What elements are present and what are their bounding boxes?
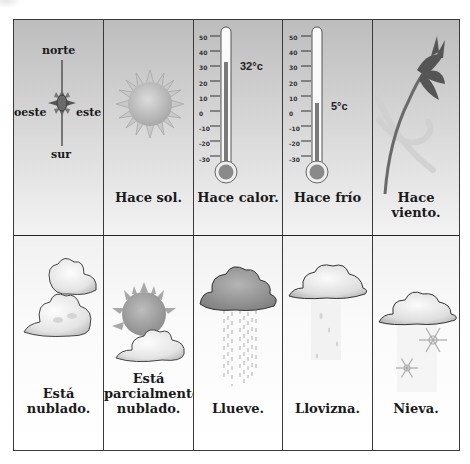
corner-smudge	[0, 0, 22, 8]
compass-west-label: oeste	[14, 106, 47, 119]
partly-cloudy-icon	[110, 282, 190, 362]
cell-snow: Nieva.	[373, 236, 459, 450]
cell-windy: Hace viento.	[373, 20, 459, 236]
drizzle-cloud-icon	[287, 260, 371, 390]
weather-vocabulary-grid: norte oeste este sur	[13, 19, 460, 451]
compass-icon	[44, 60, 80, 146]
thermometer-hot-icon	[210, 26, 250, 186]
temperature-reading-cold: 5°c	[331, 100, 348, 112]
cell-hot: 50 40 30 20 10 0 -10 -20 -30 32°c Hace c…	[194, 20, 283, 236]
sun-icon	[114, 68, 186, 140]
label-rain: Llueve.	[194, 401, 282, 416]
label-hot: Hace calor.	[194, 190, 282, 205]
temperature-reading-hot: 32°c	[240, 60, 263, 72]
label-partly-cloudy: Está parcialmente nublado.	[104, 371, 193, 416]
snow-cloud-icon	[377, 286, 459, 396]
thermometer-scale: 50 40 30 20 10 0 -10 -20 -30	[289, 30, 300, 167]
label-drizzle: Llovizna.	[283, 401, 372, 416]
label-cloudy: Está nublado.	[14, 386, 103, 416]
cell-compass: norte oeste este sur	[14, 20, 104, 236]
cell-rain: Llueve.	[194, 236, 283, 450]
cell-sunny: Hace sol.	[104, 20, 194, 236]
cell-drizzle: Llovizna.	[283, 236, 373, 450]
wind-flower-icon	[373, 30, 459, 200]
cell-cold: 50 40 30 20 10 0 -10 -20 -30 5°c Hace fr…	[283, 20, 373, 236]
rain-cloud-icon	[196, 260, 280, 390]
label-windy: Hace viento.	[373, 190, 459, 220]
cell-cloudy: Está nublado.	[14, 236, 104, 450]
label-cold: Hace frío	[283, 190, 372, 205]
compass-south-label: sur	[51, 148, 71, 161]
label-snow: Nieva.	[373, 401, 459, 416]
compass-north-label: norte	[42, 44, 75, 57]
thermometer-scale: 50 40 30 20 10 0 -10 -20 -30	[199, 30, 210, 167]
label-sunny: Hace sol.	[104, 190, 193, 205]
clouds-icon	[20, 252, 100, 342]
cell-partly-cloudy: Está parcialmente nublado.	[104, 236, 194, 450]
